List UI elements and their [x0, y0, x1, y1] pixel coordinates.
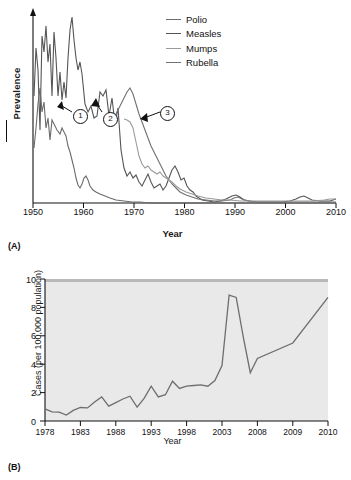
panel-b-ytick-0: 0 [20, 417, 36, 427]
panel-b-ytick-4: 4 [20, 360, 36, 370]
panel-a-xtick-1960: 1960 [69, 207, 99, 217]
annotation-marker-1: 1 [73, 109, 88, 124]
legend-label-measles: Measles [186, 29, 221, 39]
series-line-polio [34, 88, 336, 203]
legend-item-measles: Measles [166, 27, 276, 42]
panel-b-plot-background [45, 279, 328, 421]
panel-b-ytick-8: 8 [20, 303, 36, 313]
annotation-marker-2: 2 [103, 112, 118, 127]
series-line-mumps [124, 119, 336, 201]
legend-label-polio: Polio [186, 15, 207, 25]
panel-a-y-axis-label-dash [6, 120, 7, 142]
legend-label-rubella: Rubella [186, 58, 218, 68]
panel-a-y-axis-label: Prevalence [11, 54, 22, 134]
panel-b-ytick-6: 6 [20, 331, 36, 341]
legend-item-mumps: Mumps [166, 41, 276, 56]
legend-line-icon-polio [166, 19, 181, 20]
annotation-marker-3: 3 [160, 106, 175, 121]
panel-b-tag: (B) [8, 462, 21, 472]
legend-line-icon-mumps [166, 48, 181, 49]
panel-a-xtick-1980: 1980 [170, 207, 200, 217]
panel-b-x-axis-label: Year [0, 436, 345, 446]
legend-line-icon-rubella [166, 62, 181, 63]
panel-a-xtick-1970: 1970 [119, 207, 149, 217]
chart-panel-b: Cases (per 100,000 population) 0 2 4 6 8… [0, 250, 345, 480]
panel-a-xtick-2010: 2010 [321, 207, 351, 217]
chart-panel-a: Prevalence 1950 1960 1970 1980 1990 2000… [0, 0, 345, 250]
panel-a-xtick-2000: 2000 [271, 207, 301, 217]
series-line-rubella [114, 88, 336, 202]
panel-b-ytick-10: 10 [20, 275, 36, 285]
panel-b-plot-top-band [45, 279, 328, 282]
panel-b-x-ticks [45, 421, 328, 426]
panel-b-ytick-2: 2 [20, 388, 36, 398]
panel-a-y-axis-arrowhead [30, 8, 36, 16]
legend-line-icon-measles [166, 33, 181, 34]
panel-a-xtick-1950: 1950 [18, 207, 48, 217]
panel-a-x-axis-label: Year [0, 228, 345, 239]
legend-item-polio: Polio [166, 12, 276, 27]
legend-item-rubella: Rubella [166, 56, 276, 71]
panel-a-xtick-1990: 1990 [220, 207, 250, 217]
legend-label-mumps: Mumps [186, 44, 217, 54]
panel-a-legend: Polio Measles Mumps Rubella [166, 12, 276, 70]
